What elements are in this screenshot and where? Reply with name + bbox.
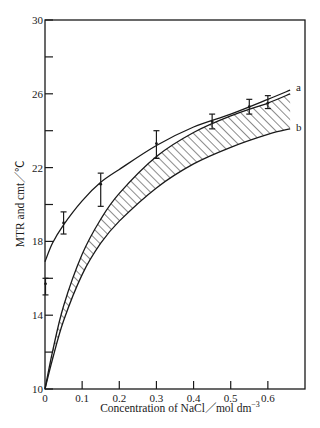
hatched-band [45, 94, 290, 389]
chart: 10141822263000.10.20.30.40.50.6 MTR and … [0, 0, 320, 428]
axes: 10141822263000.10.20.30.40.50.6 [32, 14, 305, 404]
x-tick-label: 0.1 [75, 392, 89, 404]
y-axis-title: MTR and cmt／℃ [14, 160, 26, 248]
y-tick-label: 26 [32, 88, 44, 100]
plot-area [43, 90, 291, 389]
point-marker [155, 142, 158, 145]
y-tick-label: 18 [32, 235, 44, 247]
y-tick-label: 14 [32, 309, 44, 321]
point-marker [248, 105, 251, 108]
point-marker [99, 183, 102, 186]
point-marker [62, 222, 65, 225]
curve-b-label: b [296, 121, 302, 133]
x-axis-title: Concentration of NaCl／mol dm−3 [100, 400, 260, 414]
curve-a-label: a [296, 81, 301, 93]
x-tick-label: 0 [42, 392, 48, 404]
data-point [98, 173, 104, 206]
point-marker [211, 120, 214, 123]
x-axis-title-exponent: −3 [251, 400, 260, 409]
y-tick-label: 30 [32, 14, 44, 26]
y-tick-label: 22 [32, 162, 43, 174]
data-point [61, 212, 67, 234]
x-axis-title-text: Concentration of NaCl／mol dm [100, 402, 251, 414]
x-tick-label: 0.6 [261, 392, 275, 404]
plot-frame [45, 20, 305, 389]
point-marker [266, 102, 269, 105]
